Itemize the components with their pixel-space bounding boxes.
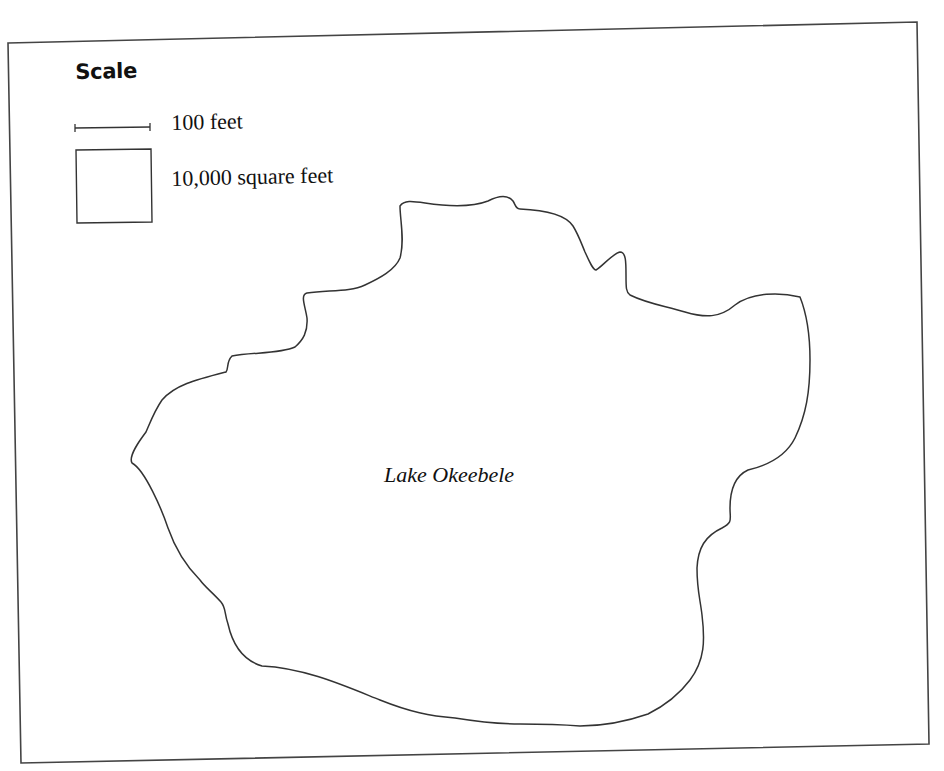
- legend-title: Scale: [75, 59, 137, 84]
- area-square-label: 10,000 square feet: [171, 162, 333, 192]
- square-area-icon: [76, 149, 152, 223]
- scale-bar-label: 100 feet: [171, 108, 243, 136]
- map-canvas: [0, 0, 944, 771]
- lake-name-label: Lake Okeebele: [384, 462, 514, 488]
- scale-bar-icon: [75, 123, 150, 132]
- map-frame: [8, 22, 929, 763]
